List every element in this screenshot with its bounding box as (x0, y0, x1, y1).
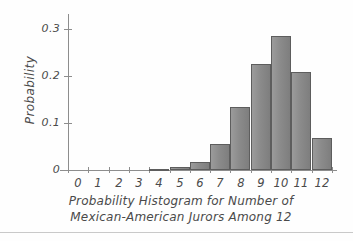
histogram-bar (190, 162, 210, 170)
x-tick-mark (129, 167, 130, 173)
caption-line-1: Probability Histogram for Number of (46, 193, 316, 209)
histogram-bar (170, 167, 190, 170)
x-tick-mark (332, 167, 333, 173)
histogram-bar (271, 36, 291, 170)
y-tick-label-text: 0.2 (26, 69, 60, 82)
histogram-bar (149, 169, 169, 171)
x-axis-line (60, 170, 337, 171)
probability-histogram-figure: Probability 00.10.20.3 0123456789101112 … (0, 0, 353, 241)
y-tick-label-text: 0.1 (26, 116, 60, 129)
y-tick-label: 0.1 (26, 116, 60, 130)
y-axis-line (68, 14, 69, 171)
x-tick-mark (68, 167, 69, 173)
x-tick-label: 12 (309, 176, 335, 190)
histogram-bar (312, 138, 332, 170)
x-tick-mark (109, 167, 110, 173)
y-tick-label-text: 0 (26, 163, 60, 176)
chart-caption: Probability Histogram for Number of Mexi… (46, 193, 316, 225)
histogram-bar (230, 107, 250, 170)
x-tick-mark (88, 167, 89, 173)
y-tick-label: 0.2 (26, 69, 60, 83)
histogram-bar (291, 72, 311, 170)
y-tick-label: 0.3 (26, 22, 60, 36)
y-tick-label-text: 0.3 (26, 22, 60, 35)
caption-line-2: Mexican-American Jurors Among 12 (46, 209, 316, 225)
y-tick-label: 0 (26, 163, 60, 177)
histogram-bar (251, 64, 271, 170)
y-tick-mark (64, 123, 72, 124)
y-tick-mark (64, 29, 72, 30)
y-tick-mark (64, 76, 72, 77)
histogram-bar (210, 144, 230, 170)
bottom-divider (0, 232, 353, 233)
